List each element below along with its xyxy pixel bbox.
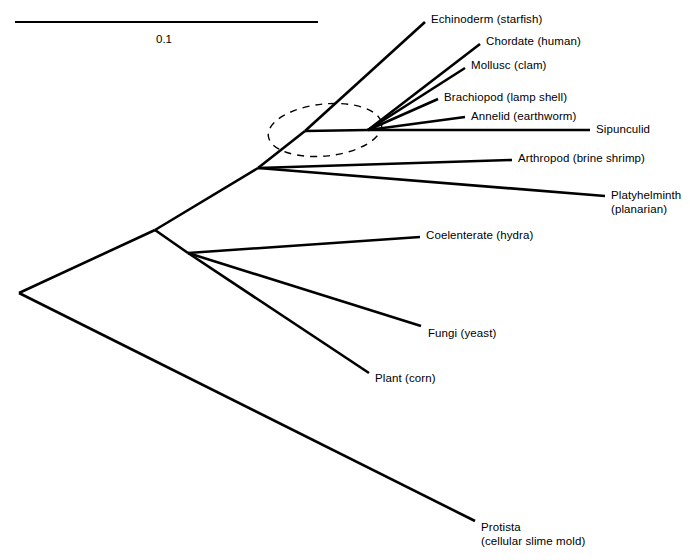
tip-label-chordate: Chordate (human) <box>486 35 581 49</box>
tip-label-line: (planarian) <box>611 203 681 217</box>
tip-label-line: Mollusc (clam) <box>471 59 547 73</box>
tip-label-line: Brachiopod (lamp shell) <box>444 91 567 105</box>
scale-bar-label: 0.1 <box>156 33 172 45</box>
tree-drawing-canvas <box>0 0 690 560</box>
tip-branch-platyhelminth <box>258 168 605 196</box>
tip-label-brachiopod: Brachiopod (lamp shell) <box>444 91 567 105</box>
tip-label-coelenterate: Coelenterate (hydra) <box>426 229 533 243</box>
tip-label-line: Protista <box>481 521 585 535</box>
tip-label-line: (cellular slime mold) <box>481 535 585 549</box>
internal-branch-group <box>19 130 368 293</box>
internal-branch-echinoderm-branchpoint-to-polytomy <box>305 130 368 131</box>
tip-label-annelid: Annelid (earthworm) <box>471 110 576 124</box>
tip-branch-arthropod <box>258 160 512 168</box>
tip-label-line: Fungi (yeast) <box>428 327 496 341</box>
tip-label-line: Platyhelminth <box>611 189 681 203</box>
tip-label-sipunculid: Sipunculid <box>596 123 650 137</box>
tip-label-line: Coelenterate (hydra) <box>426 229 533 243</box>
tip-label-plant: Plant (corn) <box>375 372 436 386</box>
tip-branch-coelenterate <box>188 237 420 253</box>
tip-label-fungi: Fungi (yeast) <box>428 327 496 341</box>
tip-label-platyhelminth: Platyhelminth(planarian) <box>611 189 681 216</box>
tip-label-line: Sipunculid <box>596 123 650 137</box>
tip-branch-echinoderm <box>305 22 425 131</box>
tip-label-echinoderm: Echinoderm (starfish) <box>431 13 542 27</box>
tip-label-line: Echinoderm (starfish) <box>431 13 542 27</box>
internal-branch-root-to-eukaryote-split <box>19 230 155 293</box>
tip-branch-protista <box>19 293 475 521</box>
tip-branch-plant <box>188 253 369 373</box>
tip-label-arthropod: Arthropod (brine shrimp) <box>518 152 645 166</box>
internal-branch-bilateria-to-echinoderm-branchpoint <box>258 131 305 168</box>
internal-branch-eukaryote-split-to-plant-fungi-node <box>155 230 188 253</box>
tip-label-mollusc: Mollusc (clam) <box>471 59 547 73</box>
phylogenetic-tree-figure: 0.1 Echinoderm (starfish)Chordate (human… <box>0 0 690 560</box>
tip-label-line: Annelid (earthworm) <box>471 110 576 124</box>
tip-branch-fungi <box>188 253 421 326</box>
tip-label-protista: Protista(cellular slime mold) <box>481 521 585 548</box>
tip-label-line: Chordate (human) <box>486 35 581 49</box>
tip-label-line: Plant (corn) <box>375 372 436 386</box>
tip-label-line: Arthropod (brine shrimp) <box>518 152 645 166</box>
internal-branch-eukaryote-split-to-bilateria <box>155 168 258 230</box>
